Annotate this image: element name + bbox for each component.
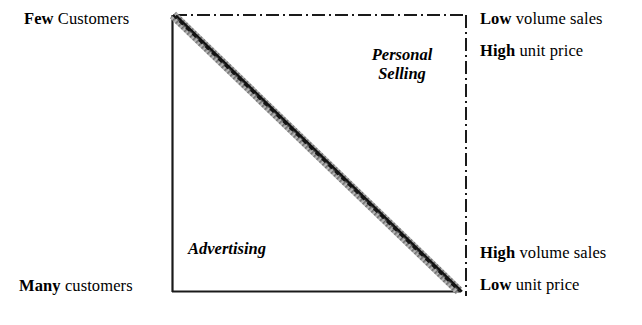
label-few-customers: Few Customers bbox=[24, 9, 129, 28]
label-few-customers-rest: Customers bbox=[54, 9, 130, 28]
label-low-unit-price-rest: unit price bbox=[511, 275, 579, 294]
label-many-customers-rest: customers bbox=[61, 276, 133, 295]
label-low-unit-price-emphasis: Low bbox=[480, 275, 511, 294]
label-high-volume-sales: High volume sales bbox=[480, 243, 606, 262]
label-high-unit-price-emphasis: High bbox=[480, 41, 515, 60]
zone-label-advertising: Advertising bbox=[188, 240, 266, 259]
label-high-volume-sales-rest: volume sales bbox=[515, 243, 606, 262]
zone-label-personal-selling-line1: Personal bbox=[352, 46, 452, 65]
label-low-unit-price: Low unit price bbox=[480, 275, 579, 294]
label-low-volume-sales: Low volume sales bbox=[480, 9, 603, 28]
label-many-customers: Many customers bbox=[19, 276, 133, 295]
diagram-canvas: Few Customers Many customers Low volume … bbox=[0, 0, 642, 325]
label-many-customers-emphasis: Many bbox=[19, 276, 61, 295]
label-low-volume-sales-rest: volume sales bbox=[511, 9, 602, 28]
label-high-volume-sales-emphasis: High bbox=[480, 243, 515, 262]
zone-label-advertising-line1: Advertising bbox=[188, 240, 266, 259]
label-few-customers-emphasis: Few bbox=[24, 9, 54, 28]
zone-label-personal-selling: Personal Selling bbox=[352, 46, 452, 83]
label-high-unit-price: High unit price bbox=[480, 41, 583, 60]
zone-label-personal-selling-line2: Selling bbox=[352, 65, 452, 84]
label-low-volume-sales-emphasis: Low bbox=[480, 9, 511, 28]
label-high-unit-price-rest: unit price bbox=[515, 41, 583, 60]
